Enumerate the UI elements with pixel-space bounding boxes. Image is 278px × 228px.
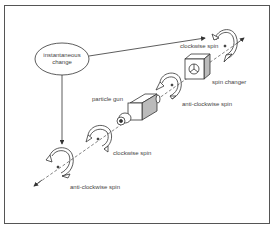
label-spin-changer: spin changer [212,79,246,86]
clockwise-spin-ring-low-icon [86,125,112,152]
particle-gun-icon [117,94,160,125]
label-particle-gun: particle gun [92,96,123,103]
spin-changer-icon [185,54,210,79]
label-anti-clockwise-spin-bottom: anti-clockwise spin [70,184,120,191]
diagram-canvas [0,0,278,228]
label-clockwise-spin-top: clockwise spin [180,43,218,50]
node-label-line1: instantaneous [37,52,87,59]
axis-arrow-bottom-icon [34,180,42,186]
anti-clockwise-spin-ring-bottom-icon [46,148,73,178]
label-anti-clockwise-spin-mid: anti-clockwise spin [182,101,232,108]
node-label-line2: change [37,59,87,66]
instantaneous-change-label: instantaneous change [37,52,87,66]
label-clockwise-spin-low: clockwise spin [113,150,151,157]
anti-clockwise-spin-ring-mid-icon [156,73,181,99]
